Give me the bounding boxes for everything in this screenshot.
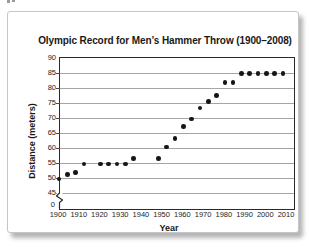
x-tick-label: 2010 [278, 210, 295, 219]
data-point-dot [231, 80, 236, 85]
data-point-dot [106, 162, 111, 167]
plot-area [59, 57, 295, 210]
data-point-dot [98, 162, 103, 167]
x-tick-label: 1930 [112, 210, 129, 219]
x-tick-label: 1960 [174, 210, 191, 219]
cropped-text-fragment [7, 0, 10, 3]
data-point-dot [131, 156, 136, 161]
y-tick-label: 50 [32, 173, 56, 182]
y-gridline [60, 148, 294, 149]
data-point-dot [73, 170, 78, 175]
data-point-dot [164, 145, 169, 150]
y-gridline [60, 118, 294, 119]
x-tick-label: 1910 [70, 210, 87, 219]
data-point-dot [123, 162, 128, 167]
data-point-dot [281, 71, 286, 76]
data-point-dot [264, 71, 269, 76]
x-tick-label: 1940 [133, 210, 150, 219]
data-point-dot [214, 93, 219, 98]
data-point-dot [65, 172, 70, 177]
y-tick-label: 75 [32, 98, 56, 107]
data-point-dot [272, 71, 277, 76]
chart-title: Olympic Record for Men’s Hammer Throw (1… [34, 35, 296, 47]
cropped-text-fragment [12, 0, 15, 2]
y-gridline [60, 88, 294, 89]
data-point-dot [239, 71, 244, 76]
x-tick-label: 1970 [195, 210, 212, 219]
data-point-dot [223, 80, 228, 85]
data-point-dot [189, 117, 194, 122]
x-tick-label: 1900 [50, 210, 67, 219]
data-point-dot [173, 136, 178, 141]
y-tick-label: 90 [32, 53, 56, 62]
data-point-dot [198, 106, 203, 111]
y-tick-label: 55 [32, 158, 56, 167]
y-gridline [60, 133, 294, 134]
x-tick-label: 1990 [236, 210, 253, 219]
y-gridline [60, 163, 294, 164]
data-point-dot [82, 162, 87, 167]
y-tick-label: 70 [32, 113, 56, 122]
data-point-dot [156, 156, 161, 161]
data-point-dot [247, 71, 252, 76]
y-gridline [60, 193, 294, 194]
data-point-dot [256, 71, 261, 76]
y-gridline [60, 103, 294, 104]
data-point-dot [181, 124, 186, 129]
x-axis-title: Year [52, 223, 286, 233]
y-tick-label: 65 [32, 128, 56, 137]
figure-card: Olympic Record for Men’s Hammer Throw (1… [7, 11, 299, 233]
figure-stage: Olympic Record for Men’s Hammer Throw (1… [0, 0, 309, 249]
data-point-dot [57, 177, 62, 182]
x-tick-label: 1920 [91, 210, 108, 219]
x-tick-label: 2000 [257, 210, 274, 219]
y-gridline [60, 178, 294, 179]
data-point-dot [115, 162, 120, 167]
y-tick-label: 85 [32, 68, 56, 77]
x-tick-label: 1980 [215, 210, 232, 219]
x-tick-label: 1950 [153, 210, 170, 219]
axis-break-icon [52, 188, 68, 210]
y-tick-label: 80 [32, 83, 56, 92]
y-tick-label: 60 [32, 143, 56, 152]
data-point-dot [206, 99, 211, 104]
